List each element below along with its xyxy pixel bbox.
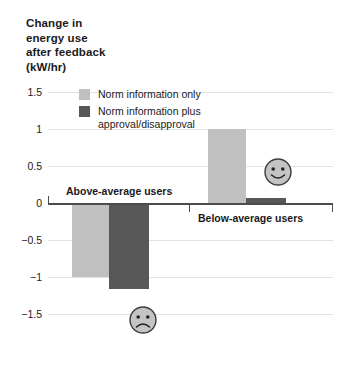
legend-swatch-light-icon (79, 89, 90, 100)
legend-item-norm-information-only: Norm information only (79, 88, 201, 101)
bar-below-average-norm-information-only (208, 129, 246, 203)
ytick-label-0: 0 (36, 197, 42, 209)
gridline-neg1.5 (48, 314, 333, 315)
bar-above-average-norm-plus-approval (109, 204, 149, 289)
bar-above-average-norm-information-only (72, 204, 109, 277)
legend-item-norm-plus-approval: Norm information plus approval/disapprov… (79, 105, 201, 131)
ytick-label-0.5: 0.5 (27, 160, 42, 172)
zero-axis-line (48, 203, 333, 205)
gridline-neg1 (48, 277, 333, 278)
energy-use-bar-chart: Change in energy use after feedback (kW/… (0, 0, 343, 365)
axis-cap-right (332, 203, 333, 212)
chart-title: Change in energy use after feedback (kW/… (26, 16, 176, 74)
frowning-face-icon (128, 305, 158, 335)
legend-label-norm-plus-approval: Norm information plus approval/disapprov… (98, 105, 201, 131)
legend-label-norm-information-only: Norm information only (98, 88, 201, 101)
axis-cap-middle (189, 203, 190, 212)
axis-cap-left (48, 196, 49, 204)
group-label-below-average: Below-average users (198, 212, 303, 224)
chart-legend: Norm information only Norm information p… (79, 88, 201, 135)
ytick-label-neg1: −1 (30, 271, 42, 283)
ytick-label-1.5: 1.5 (27, 86, 42, 98)
ytick-label-neg0.5: −0.5 (21, 234, 42, 246)
ytick-label-neg1.5: −1.5 (21, 308, 42, 320)
group-label-above-average: Above-average users (66, 185, 172, 197)
ytick-label-1: 1 (36, 123, 42, 135)
legend-swatch-dark-icon (79, 106, 90, 117)
smiling-face-icon (263, 157, 293, 187)
